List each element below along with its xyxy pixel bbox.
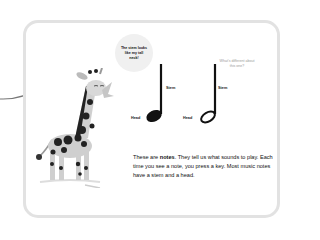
lesson-body-text: These are notes. They tell us what sound… (133, 153, 273, 180)
giraffe-illustration (30, 68, 115, 188)
head-label-1: Head (131, 116, 140, 120)
side-note: What's different about this one? (218, 59, 256, 69)
notes-diagram (125, 62, 225, 132)
stem-label-1: Stem (166, 86, 175, 90)
notes-keyword: notes (160, 154, 175, 160)
speech-bubble-text: The stem looks like my tall neck! (120, 46, 148, 61)
head-label-2: Head (183, 116, 192, 120)
stem-label-2: Stem (218, 86, 227, 90)
quarter-note-icon (144, 64, 163, 124)
half-note-icon (199, 64, 216, 125)
